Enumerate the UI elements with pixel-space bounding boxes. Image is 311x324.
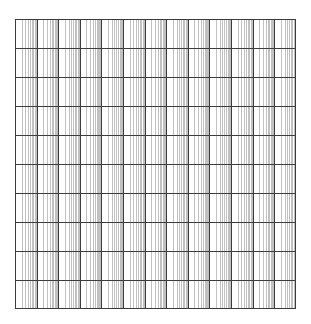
grid-layer — [15, 19, 296, 309]
semi-log-graph-paper — [15, 19, 296, 309]
page-root: Blank semi-logarithmic grid sheet: logar… — [0, 0, 311, 324]
grid-svg — [15, 19, 296, 309]
